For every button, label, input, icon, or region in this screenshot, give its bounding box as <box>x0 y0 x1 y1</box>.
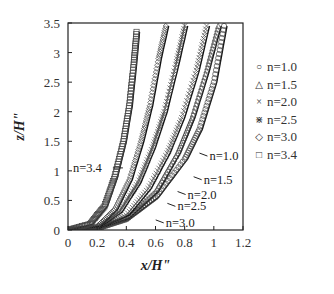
asterisk-marker <box>172 65 177 70</box>
diamond-marker <box>140 131 145 136</box>
leader-line <box>194 177 202 180</box>
asterisk-marker <box>163 102 168 107</box>
circle-marker <box>206 96 211 101</box>
legend-item: ○n=1.0 <box>254 58 297 76</box>
legend-item: ⋇n=2.5 <box>254 111 297 129</box>
triangle-marker <box>202 74 207 79</box>
circle-marker <box>200 117 205 122</box>
square-marker <box>131 65 136 70</box>
asterisk-marker <box>172 69 177 74</box>
annotation-label: n=3.0 <box>166 216 195 230</box>
triangle-marker <box>199 85 204 90</box>
circle-marker <box>210 83 215 88</box>
square-marker <box>128 94 133 99</box>
x-tick-label: 0.6 <box>147 235 164 250</box>
x-icon: × <box>254 93 264 111</box>
x-tick-label: 1 <box>211 235 218 250</box>
square-icon: □ <box>254 146 264 164</box>
asterisk-marker <box>166 92 171 97</box>
y-tick-label: 1 <box>54 164 61 179</box>
x-marker <box>189 85 194 90</box>
y-tick-label: 3 <box>54 46 61 61</box>
legend: ○n=1.0△n=1.5×n=2.0⋇n=2.5◇n=3.0□n=3.4 <box>254 58 297 163</box>
y-tick-label: 0.5 <box>44 193 60 208</box>
triangle-marker <box>194 102 199 107</box>
x-marker <box>184 98 189 103</box>
x-tick-label: 0.2 <box>89 235 105 250</box>
square-marker <box>130 68 135 73</box>
annotation-label: n=1.0 <box>209 149 238 163</box>
square-marker <box>129 85 134 90</box>
x-marker <box>181 108 186 113</box>
diamond-marker <box>146 108 151 113</box>
triangle-icon: △ <box>254 76 264 94</box>
legend-label: n=2.5 <box>267 111 297 129</box>
x-marker <box>192 74 197 79</box>
diamond-marker <box>143 118 148 123</box>
triangle-marker <box>190 112 195 117</box>
x-tick-label: 0 <box>65 235 72 250</box>
triangle-marker <box>195 98 200 103</box>
asterisk-marker <box>167 89 172 94</box>
annotation-label: n=2.5 <box>177 199 206 213</box>
leader-line <box>178 192 186 195</box>
circle-marker <box>208 90 213 95</box>
circle-marker <box>198 123 203 128</box>
y-axis-label: z/H" <box>12 113 27 142</box>
circle-marker <box>209 86 214 91</box>
triangle-marker <box>198 88 203 93</box>
asterisk-marker <box>169 79 174 84</box>
legend-label: n=1.5 <box>267 76 297 94</box>
circle-marker <box>199 120 204 125</box>
circle-marker <box>203 107 208 112</box>
legend-label: n=2.0 <box>267 93 297 111</box>
legend-label: n=3.0 <box>267 128 297 146</box>
y-tick-label: 0 <box>54 223 61 238</box>
diamond-marker <box>139 136 144 141</box>
legend-item: □n=3.4 <box>254 146 297 164</box>
y-tick-label: 2.5 <box>44 75 60 90</box>
x-marker <box>190 81 195 86</box>
triangle-marker <box>200 81 205 86</box>
triangle-marker <box>203 71 208 76</box>
diamond-marker <box>141 129 146 134</box>
asterisk-marker <box>168 82 173 87</box>
x-marker <box>191 78 196 83</box>
square-marker <box>129 83 134 88</box>
x-tick-label: 0.8 <box>177 235 193 250</box>
x-tick-label: 0.4 <box>118 235 135 250</box>
triangle-marker <box>191 108 196 113</box>
fit-line-n=2.5 <box>71 26 188 230</box>
x-marker <box>182 105 187 110</box>
x-marker <box>204 23 209 28</box>
diamond-marker <box>146 106 151 111</box>
diamond-marker <box>140 134 145 139</box>
triangle-marker <box>201 78 206 83</box>
leader-line <box>167 203 175 206</box>
square-marker <box>130 71 135 76</box>
circle-marker <box>204 103 209 108</box>
x-axis-label: x/H" <box>140 258 171 273</box>
diamond-marker <box>144 116 149 121</box>
y-tick-label: 2 <box>54 105 61 120</box>
legend-label: n=3.4 <box>267 146 297 164</box>
asterisk-marker <box>167 85 172 90</box>
annotation-label: n=3.4 <box>73 161 103 175</box>
diamond-marker <box>143 121 148 126</box>
x-marker <box>187 88 192 93</box>
legend-item: △n=1.5 <box>254 76 297 94</box>
leader-line <box>199 153 207 156</box>
square-marker <box>128 91 133 96</box>
triangle-marker <box>197 91 202 96</box>
y-tick-label: 3.5 <box>44 16 60 31</box>
circle-marker <box>202 110 207 115</box>
triangle-marker <box>196 95 201 100</box>
asterisk-icon: ⋇ <box>254 111 264 129</box>
triangle-marker <box>192 105 197 110</box>
square-marker <box>129 80 134 85</box>
asterisk-marker <box>162 106 167 111</box>
diamond-marker <box>145 111 150 116</box>
x-marker <box>186 91 191 96</box>
asterisk-marker <box>164 99 169 104</box>
asterisk-marker <box>165 96 170 101</box>
